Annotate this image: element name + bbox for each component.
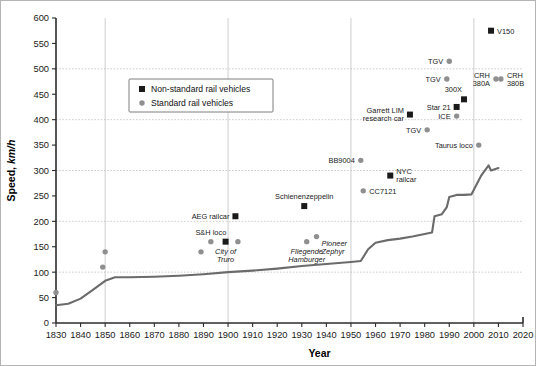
point-label-line: TGV: [406, 126, 421, 135]
data-point-standard[interactable]: [476, 142, 481, 147]
point-label-line: 300X: [445, 85, 462, 94]
point-label: Star 21: [427, 103, 451, 112]
y-tick-label: 300: [33, 166, 49, 176]
point-label: TGV: [428, 57, 443, 66]
x-tick-label: 2010: [488, 330, 509, 340]
legend-marker-square: [139, 86, 145, 92]
point-label-line: TGV: [428, 57, 443, 66]
x-axis-title: Year: [308, 347, 330, 359]
data-point-standard[interactable]: [314, 234, 319, 239]
point-label: NYCrailcar: [396, 167, 417, 184]
point-label: ICE: [438, 112, 450, 121]
data-point-standard[interactable]: [208, 239, 213, 244]
x-tick-label: 1870: [144, 330, 165, 340]
data-point-standard[interactable]: [198, 249, 203, 254]
speed-envelope-line: [56, 165, 498, 305]
x-tick-label: 1850: [95, 330, 116, 340]
data-point-nonstandard[interactable]: [461, 96, 467, 102]
point-label-line: railcar: [396, 175, 417, 184]
x-tick-label: 1970: [390, 330, 411, 340]
point-label-line: Zephyr: [321, 247, 346, 256]
x-tick-label: 1830: [46, 330, 67, 340]
data-point-standard[interactable]: [235, 239, 240, 244]
x-tick-label: 1840: [70, 330, 91, 340]
point-label: TGV: [406, 126, 421, 135]
x-tick-label: 2000: [463, 330, 484, 340]
y-tick-label: 250: [33, 191, 49, 201]
y-tick-label: 400: [33, 115, 49, 125]
legend-label: Non-standard rail vehicles: [151, 84, 250, 94]
y-tick-label: 100: [33, 268, 49, 278]
point-label: CC7121: [369, 187, 396, 196]
data-point-nonstandard[interactable]: [223, 239, 229, 245]
data-point-nonstandard[interactable]: [301, 203, 307, 209]
y-tick-label: 0: [44, 318, 49, 328]
x-tick-label: 1950: [341, 330, 362, 340]
data-point-standard[interactable]: [102, 249, 107, 254]
point-label-line: Taurus loco: [435, 141, 473, 150]
y-axis-title: Speed, km/h: [5, 140, 17, 202]
x-tick-label: 1860: [119, 330, 140, 340]
y-axis-title-main: Speed,: [5, 164, 17, 201]
point-label-line: 380B: [507, 79, 524, 88]
point-label-line: V150: [497, 27, 514, 36]
data-point-nonstandard[interactable]: [488, 28, 494, 34]
point-label: 300X: [445, 85, 462, 94]
point-label-line: Hamburger: [288, 255, 326, 264]
data-point-standard[interactable]: [424, 127, 429, 132]
data-point-standard[interactable]: [358, 158, 363, 163]
data-point-standard[interactable]: [454, 113, 459, 118]
point-label-line: 380A: [473, 79, 490, 88]
y-tick-label: 200: [33, 217, 49, 227]
data-point-standard[interactable]: [100, 264, 105, 269]
y-axis-title-unit: km/h: [5, 140, 17, 165]
point-label-line: Truro: [217, 255, 234, 264]
data-point-standard[interactable]: [361, 188, 366, 193]
x-tick-label: 1930: [291, 330, 312, 340]
x-tick-label: 1900: [218, 330, 239, 340]
data-point-standard[interactable]: [304, 239, 309, 244]
y-tick-label: 350: [33, 140, 49, 150]
x-tick-label: 2020: [513, 330, 534, 340]
data-point-nonstandard[interactable]: [387, 173, 393, 179]
point-label-line: Star 21: [427, 103, 451, 112]
point-label: CRH380A: [473, 71, 490, 88]
point-label: V150: [497, 27, 514, 36]
point-label-line: TGV: [426, 75, 441, 84]
data-point-nonstandard[interactable]: [454, 104, 460, 110]
point-label-line: ICE: [438, 112, 450, 121]
data-point-nonstandard[interactable]: [407, 112, 413, 118]
point-label: Schienenzeppelin: [275, 192, 333, 201]
legend-marker-circle: [139, 100, 144, 105]
x-tick-label: 1990: [439, 330, 460, 340]
data-point-standard[interactable]: [444, 76, 449, 81]
point-label: City ofTruro: [215, 247, 237, 264]
y-tick-label: 600: [33, 13, 49, 23]
y-tick-label: 550: [33, 39, 49, 49]
y-tick-label: 150: [33, 242, 49, 252]
x-tick-label: 1980: [414, 330, 435, 340]
point-label: Taurus loco: [435, 141, 473, 150]
x-tick-label: 1940: [316, 330, 337, 340]
point-label: CRH380B: [507, 71, 524, 88]
data-point-standard[interactable]: [493, 76, 498, 81]
data-point-standard[interactable]: [498, 76, 503, 81]
point-label: TGV: [426, 75, 441, 84]
x-tick-label: 1880: [169, 330, 190, 340]
y-tick-label: 450: [33, 90, 49, 100]
y-tick-label: 50: [39, 293, 49, 303]
point-label-line: BB9004: [328, 156, 354, 165]
x-tick-label: 1890: [193, 330, 214, 340]
y-tick-label: 500: [33, 64, 49, 74]
point-label: FliegendeHamburger: [288, 247, 326, 264]
point-label: AEG railcar: [192, 212, 230, 221]
data-point-nonstandard[interactable]: [232, 213, 238, 219]
data-point-standard[interactable]: [447, 59, 452, 64]
point-label-line: S&H loco: [195, 228, 226, 237]
point-label: BB9004: [328, 156, 354, 165]
data-point-standard[interactable]: [53, 290, 58, 295]
point-label-line: Schienenzeppelin: [275, 192, 333, 201]
chart-canvas: 0501001502002503003504004505005506001830…: [1, 1, 536, 366]
legend-label: Standard rail vehicles: [151, 98, 233, 108]
x-tick-label: 1910: [242, 330, 263, 340]
